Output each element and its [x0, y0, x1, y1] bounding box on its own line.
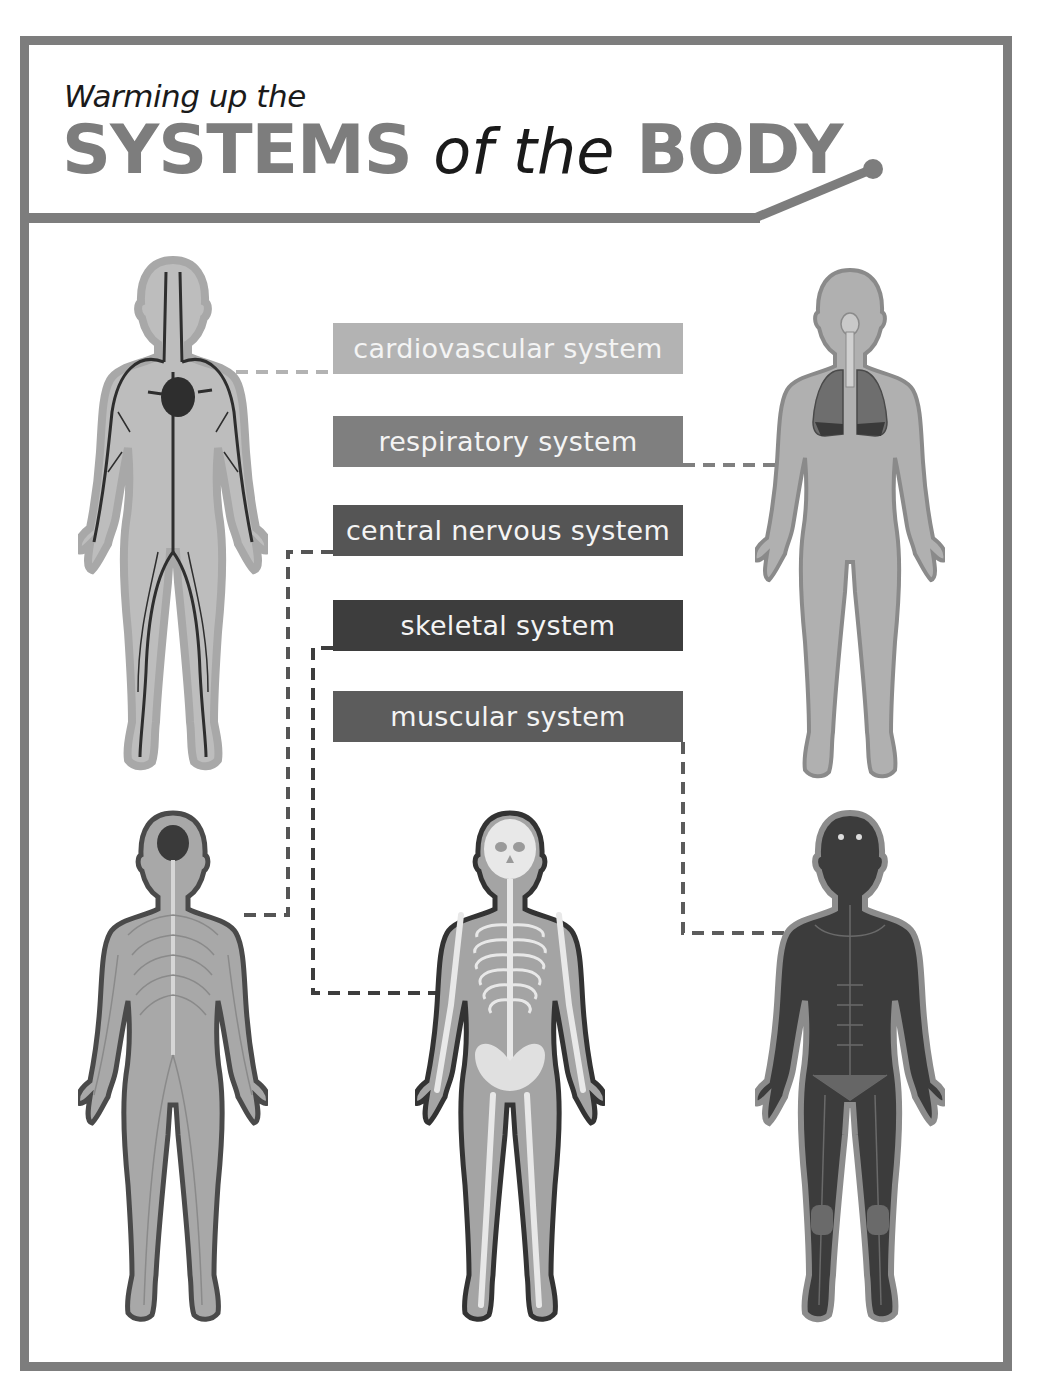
muscular-figure: [755, 805, 945, 1325]
label-skeletal-system: skeletal system: [333, 600, 683, 651]
label-respiratory-system: respiratory system: [333, 416, 683, 467]
label-central-nervous-system: central nervous system: [333, 505, 683, 556]
brain-icon: [157, 825, 189, 861]
knee-right: [867, 1205, 889, 1235]
skull-icon: [484, 819, 536, 879]
eye-left: [838, 834, 844, 840]
heart-icon: [161, 377, 195, 417]
label-cardiovascular-system: cardiovascular system: [333, 323, 683, 374]
eye-right: [856, 834, 862, 840]
respiratory-figure: [755, 262, 945, 782]
knee-left: [811, 1205, 833, 1235]
skeletal-figure: [415, 805, 605, 1325]
nervous-system-figure: [78, 805, 268, 1325]
cardiovascular-figure: [78, 252, 268, 772]
label-muscular-system: muscular system: [333, 691, 683, 742]
trachea-icon: [846, 332, 854, 387]
header-accent-line: [755, 170, 870, 218]
header-accent-dot: [863, 159, 883, 179]
